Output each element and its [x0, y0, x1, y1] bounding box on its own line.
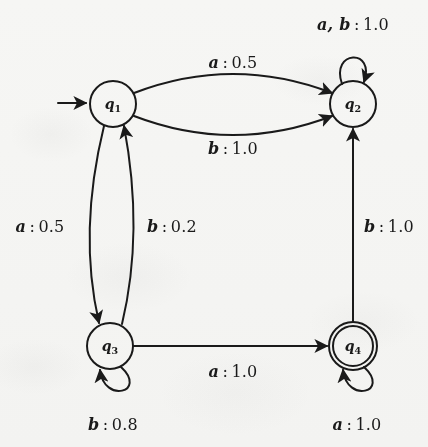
edge-label-q4-q2-b: b : 1.0	[364, 217, 414, 236]
edge-q1-q3-a	[90, 126, 104, 323]
edge-label-q1-q3-a: a : 0.5	[15, 217, 64, 236]
edge-label-q4-self-a: a : 1.0	[332, 415, 381, 434]
state-label-q2: q2	[345, 96, 361, 115]
edge-label-q3-q1-b: b : 0.2	[147, 217, 197, 236]
edge-label-q1-q2-a: a : 0.5	[208, 53, 257, 72]
edge-q4-self-a	[343, 367, 373, 391]
edge-label-q1-q2-b: b : 1.0	[208, 139, 258, 158]
edge-q3-self-b	[100, 367, 130, 391]
state-label-q3: q3	[102, 338, 118, 357]
edge-q3-q1-b	[122, 126, 134, 324]
edge-label-q3-q4-a: a : 1.0	[208, 362, 257, 381]
edge-q1-q2-a	[134, 74, 332, 93]
edge-q1-q2-b	[134, 116, 332, 135]
state-diagram-canvas: q1 q2 q3 q4 a : 0.5 b : 1.0 a, b : 1.0 a…	[0, 0, 428, 447]
state-label-q4: q4	[345, 338, 361, 357]
edge-label-q2-self-ab: a, b : 1.0	[317, 15, 389, 34]
state-label-q1: q1	[105, 96, 121, 115]
edge-label-q3-self-b: b : 0.8	[88, 415, 138, 434]
